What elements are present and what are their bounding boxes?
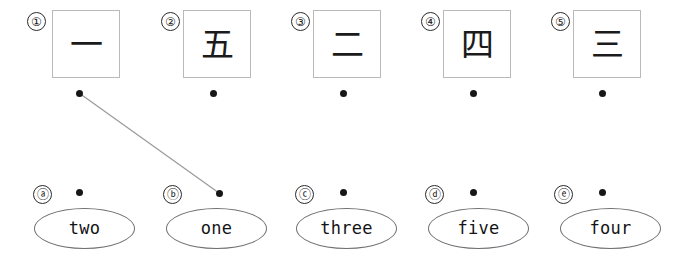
kanji-glyph-1: 一 xyxy=(53,11,119,77)
word-oval-d[interactable]: five xyxy=(428,208,529,249)
word-oval-e[interactable]: four xyxy=(560,208,661,249)
prompt-marker-3: ③ xyxy=(291,12,310,31)
kanji-glyph-5: 三 xyxy=(574,11,640,77)
prompt-marker-1: ① xyxy=(27,12,46,31)
answer-dot-d[interactable] xyxy=(470,189,477,196)
prompt-marker-5: ⑤ xyxy=(551,12,570,31)
prompt-dot-4[interactable] xyxy=(470,90,477,97)
word-label-d: five xyxy=(457,220,499,237)
kanji-card-5[interactable]: 三 xyxy=(573,10,641,78)
answer-dot-b[interactable] xyxy=(216,190,223,197)
word-label-b: one xyxy=(201,220,233,237)
prompt-marker-2: ② xyxy=(161,12,180,31)
word-label-c: three xyxy=(320,220,373,237)
word-label-a: two xyxy=(69,220,101,237)
word-oval-b[interactable]: one xyxy=(166,208,267,249)
word-label-e: four xyxy=(589,220,631,237)
prompt-marker-4: ④ xyxy=(421,12,440,31)
matching-exercise-canvas: ① 一 ② 五 ③ 二 ④ 四 ⑤ 三 ⓐ two ⓑ one ⓒ three … xyxy=(0,0,677,263)
kanji-glyph-4: 四 xyxy=(444,11,510,77)
kanji-card-1[interactable]: 一 xyxy=(52,10,120,78)
prompt-dot-2[interactable] xyxy=(210,90,217,97)
word-oval-a[interactable]: two xyxy=(34,208,135,249)
answer-dot-c[interactable] xyxy=(340,189,347,196)
answer-dot-e[interactable] xyxy=(599,189,606,196)
prompt-dot-1[interactable] xyxy=(76,90,83,97)
answer-marker-d: ⓓ xyxy=(425,185,444,204)
answer-dot-a[interactable] xyxy=(76,189,83,196)
answer-marker-b: ⓑ xyxy=(163,185,182,204)
word-oval-c[interactable]: three xyxy=(296,208,397,249)
kanji-card-4[interactable]: 四 xyxy=(443,10,511,78)
answer-marker-a: ⓐ xyxy=(33,185,52,204)
kanji-card-3[interactable]: 二 xyxy=(313,10,381,78)
answer-marker-c: ⓒ xyxy=(295,185,314,204)
kanji-card-2[interactable]: 五 xyxy=(183,10,251,78)
match-line-1[interactable] xyxy=(79,93,219,193)
prompt-dot-3[interactable] xyxy=(340,90,347,97)
answer-marker-e: ⓔ xyxy=(554,185,573,204)
kanji-glyph-3: 二 xyxy=(314,11,380,77)
prompt-dot-5[interactable] xyxy=(599,90,606,97)
kanji-glyph-2: 五 xyxy=(184,11,250,77)
